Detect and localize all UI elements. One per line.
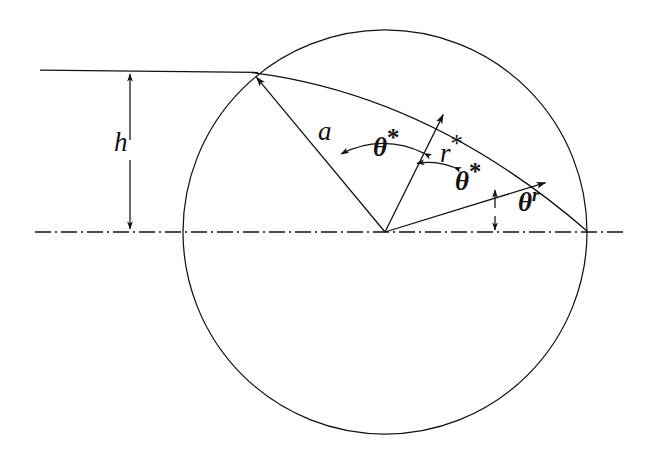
diagram-svg [0, 0, 650, 463]
label-theta-r: θr [518, 186, 539, 216]
figure-canvas: h a θ* r* θ* θr [0, 0, 650, 463]
label-theta-star-2: θ* [455, 160, 481, 195]
label-h: h [114, 129, 128, 156]
label-theta-star-1: θ* [373, 126, 399, 161]
free-surface-line [40, 70, 258, 72]
label-a: a [318, 118, 332, 145]
ray-a [257, 77, 386, 232]
